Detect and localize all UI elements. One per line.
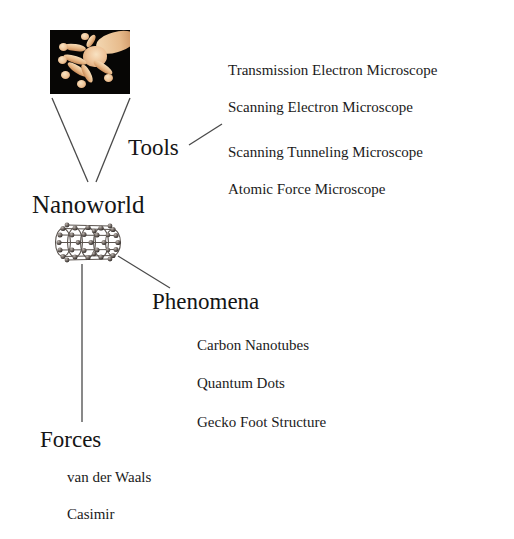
edge-tools-to-items (189, 124, 222, 145)
nanoworld-concept-map: Nanoworld Tools Transmission Electron Mi… (0, 0, 514, 539)
node-tools: Tools (128, 136, 179, 159)
leaf-tools-3: Scanning Tunneling Microscope (228, 145, 423, 160)
leaf-tools-2: Scanning Electron Microscope (228, 100, 413, 115)
leaf-forces-1: van der Waals (67, 470, 151, 485)
edge-photo-to-root-left (52, 98, 88, 182)
node-forces: Forces (40, 428, 101, 451)
carbon-nanotube-model (50, 221, 126, 264)
leaf-tools-1: Transmission Electron Microscope (228, 63, 437, 78)
leaf-phenomena-2: Quantum Dots (197, 376, 285, 391)
leaf-tools-4: Atomic Force Microscope (228, 182, 385, 197)
leaf-phenomena-3: Gecko Foot Structure (197, 415, 326, 430)
leaf-phenomena-1: Carbon Nanotubes (197, 338, 309, 353)
node-nanoworld: Nanoworld (32, 192, 144, 217)
edge-photo-to-root-right (96, 98, 130, 182)
node-phenomena: Phenomena (152, 290, 259, 313)
leaf-forces-2: Casimir (67, 507, 115, 522)
gecko-foot-photo (50, 30, 130, 94)
